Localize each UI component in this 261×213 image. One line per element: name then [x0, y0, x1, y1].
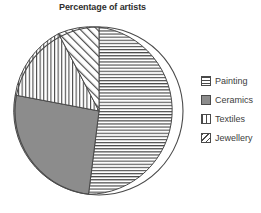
legend-label-textiles: Textiles — [215, 114, 245, 124]
legend-item-painting[interactable]: Painting — [201, 72, 261, 91]
solid-gray-swatch-icon — [201, 95, 211, 105]
legend-label-ceramics: Ceramics — [215, 95, 253, 105]
vertical-hatch-swatch-icon — [201, 114, 211, 124]
legend-label-painting: Painting — [215, 76, 248, 86]
pie-slice-ceramics[interactable] — [14, 95, 99, 194]
legend-label-jewellery: Jewellery — [215, 133, 253, 143]
legend-item-textiles[interactable]: Textiles — [201, 110, 261, 129]
pie-chart-canvas — [0, 18, 205, 213]
legend-item-jewellery[interactable]: Jewellery — [201, 128, 261, 147]
chart-title: Percentage of artists — [0, 2, 205, 12]
pie-slices — [14, 27, 172, 195]
pie-chart-figure: Percentage of artists — [0, 0, 261, 213]
legend-item-ceramics[interactable]: Ceramics — [201, 91, 261, 110]
horizontal-hatch-swatch-icon — [201, 76, 211, 86]
chart-legend: Painting Ceramics Textiles Jewellery — [201, 72, 261, 147]
diagonal-hatch-swatch-icon — [201, 133, 211, 143]
